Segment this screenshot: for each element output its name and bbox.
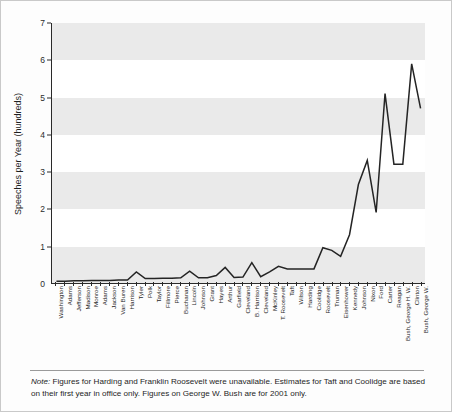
x-axis-label-24: McKinley bbox=[272, 286, 278, 311]
x-tick-33 bbox=[349, 282, 350, 286]
x-tick-24 bbox=[269, 282, 270, 286]
x-axis-label-26: Taft bbox=[289, 286, 295, 296]
x-axis-label-41: Bush, George W. bbox=[423, 286, 429, 333]
x-axis-label-15: Lincoln bbox=[191, 286, 197, 306]
x-axis-label-39: Bush, George H. W. bbox=[405, 286, 411, 341]
x-axis-label-13: Pierce bbox=[174, 286, 180, 304]
chart-note: Note: Figures for Harding and Franklin R… bbox=[31, 376, 425, 399]
x-axis-label-29: Coolidge bbox=[316, 286, 322, 310]
x-axis-label-25: T. Roosevelt bbox=[280, 286, 286, 320]
x-axis-label-34: Johnson bbox=[361, 286, 367, 309]
x-axis-label-32: Eisenhower bbox=[343, 286, 349, 318]
x-axis-label-37: Carter bbox=[387, 286, 393, 303]
x-axis-label-31: Truman bbox=[334, 286, 340, 307]
chart-figure: Speeches per Year (hundreds) 01234567 Wa… bbox=[0, 0, 452, 412]
x-tick-8 bbox=[127, 282, 128, 286]
x-axis-label-33: Kennedy bbox=[352, 286, 358, 310]
y-tick-label-2: 2 bbox=[40, 204, 45, 214]
plot-area bbox=[51, 23, 425, 284]
y-tick-label-7: 7 bbox=[40, 18, 45, 28]
x-axis-label-21: Cleveland bbox=[245, 286, 251, 314]
x-tick-16 bbox=[198, 282, 199, 286]
x-axis-label-40: Clinton bbox=[414, 286, 420, 305]
x-axis-label-17: Grant bbox=[209, 286, 215, 301]
x-axis-label-8: Harrison bbox=[129, 286, 135, 309]
x-axis-label-7: Van Buren bbox=[120, 286, 126, 315]
y-tick-label-0: 0 bbox=[40, 279, 45, 289]
x-tick-0 bbox=[55, 282, 56, 286]
x-axis-label-5: Adams bbox=[102, 286, 108, 305]
x-axis-label-16: Johnson bbox=[200, 286, 206, 309]
x-axis-label-18: Hayes bbox=[218, 286, 224, 304]
x-tick-35 bbox=[367, 282, 368, 286]
x-tick-17 bbox=[207, 282, 208, 286]
note-text: Figures for Harding and Franklin Rooseve… bbox=[31, 377, 425, 398]
x-axis-label-11: Taylor bbox=[156, 286, 162, 303]
x-axis-label-27: Wilson bbox=[298, 286, 304, 305]
x-tick-34 bbox=[358, 282, 359, 286]
x-axis-label-1: Adams bbox=[67, 286, 73, 305]
x-axis-label-3: Madison bbox=[85, 286, 91, 309]
x-axis-labels: WashingtonAdamsJeffersonMadisonMonroeAda… bbox=[51, 286, 425, 364]
x-axis-label-0: Washington bbox=[58, 286, 64, 318]
x-axis-label-30: Roosevelt bbox=[325, 286, 331, 314]
x-axis-label-23: Cleveland bbox=[263, 286, 269, 314]
x-axis-label-14: Buchanan bbox=[183, 286, 189, 314]
x-axis-label-22: B. Harrison bbox=[254, 286, 260, 317]
note-divider bbox=[30, 370, 424, 371]
x-axis-label-4: Monroe bbox=[93, 286, 99, 307]
x-axis-label-28: Harding bbox=[307, 286, 313, 308]
y-tick-label-1: 1 bbox=[40, 242, 45, 252]
y-tick-label-6: 6 bbox=[40, 55, 45, 65]
x-axis-label-36: Ford bbox=[378, 286, 384, 299]
y-tick-label-4: 4 bbox=[40, 130, 45, 140]
x-axis-label-38: Reagan bbox=[396, 286, 402, 308]
speeches-line-path bbox=[56, 64, 420, 281]
y-tick-label-5: 5 bbox=[40, 93, 45, 103]
x-axis-label-9: Tyler bbox=[138, 286, 144, 299]
x-axis-label-19: Arthur bbox=[227, 286, 233, 303]
x-axis-label-6: Jackson bbox=[111, 286, 117, 309]
y-tick-label-3: 3 bbox=[40, 167, 45, 177]
note-lead: Note: bbox=[31, 377, 50, 386]
x-axis-label-35: Nixon bbox=[370, 286, 376, 302]
x-axis-label-10: Polk bbox=[147, 286, 153, 298]
x-tick-3 bbox=[82, 282, 83, 286]
x-tick-14 bbox=[180, 282, 181, 286]
y-axis-ticks: 01234567 bbox=[1, 1, 51, 284]
line-series-svg bbox=[52, 23, 425, 283]
x-axis-label-20: Garfield bbox=[236, 286, 242, 308]
x-axis-label-2: Jefferson bbox=[76, 286, 82, 311]
x-tick-9 bbox=[136, 282, 137, 286]
x-tick-29 bbox=[314, 282, 315, 286]
x-axis-label-12: Fillmore bbox=[165, 286, 171, 308]
